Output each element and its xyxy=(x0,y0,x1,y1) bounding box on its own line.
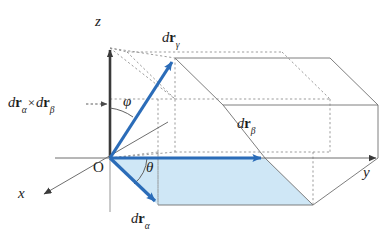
cross-bold-r-1: r xyxy=(15,94,21,110)
z-axis-label: z xyxy=(95,14,101,29)
dr-alpha-subscript: α xyxy=(145,221,150,231)
dr-alpha-label: drα xyxy=(131,211,150,229)
dr-beta-bold-r: r xyxy=(244,115,250,131)
cross-operator-icon: × xyxy=(27,95,36,110)
origin-label: O xyxy=(93,160,104,175)
phi-angle-label: φ xyxy=(123,94,131,109)
dr-alpha-bold-r: r xyxy=(138,210,144,226)
cross-subscript-2: β xyxy=(50,105,55,115)
vector-cross-product-figure: z y x O φ θ drγ drβ drα drα×drβ xyxy=(0,0,392,238)
figure-canvas xyxy=(0,0,392,238)
dr-beta-subscript: β xyxy=(251,126,256,136)
dr-gamma-label: drγ xyxy=(162,30,179,48)
x-axis-label: x xyxy=(18,186,25,201)
cross-bold-r-2: r xyxy=(43,94,49,110)
theta-angle-label: θ xyxy=(146,160,153,175)
dr-gamma-bold-r: r xyxy=(169,29,175,45)
dr-gamma-subscript: γ xyxy=(176,40,180,50)
phi-arc xyxy=(110,108,133,117)
cross-subscript-1: α xyxy=(22,105,27,115)
y-axis-label: y xyxy=(363,165,370,180)
cross-product-label: drα×drβ xyxy=(8,95,54,113)
dr-beta-label: drβ xyxy=(237,116,255,134)
shaded-parallelogram xyxy=(110,158,313,205)
